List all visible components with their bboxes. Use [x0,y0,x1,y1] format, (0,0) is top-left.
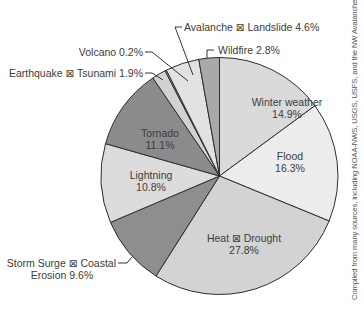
label-lightning-name: Lightning [116,169,186,181]
leader-line-storm-surge [118,257,132,263]
label-storm-surge: Storm Surge ⊠ Coastal Erosion 9.6% [0,257,116,281]
label-flood-name: Flood [255,150,325,162]
label-lightning: Lightning 10.8% [116,169,186,193]
label-avalanche-landslide: Avalanche ⊠ Landslide 4.6% [184,21,319,33]
label-heat-drought-pct: 27.8% [194,244,294,256]
label-winter-weather-name: Winter weather [247,96,327,108]
label-volcano: Volcano 0.2% [40,46,143,58]
label-tornado-name: Tornado [130,127,190,139]
label-flood: Flood 16.3% [255,150,325,174]
label-wildfire: Wildfire 2.8% [218,44,280,56]
label-flood-pct: 16.3% [255,162,325,174]
label-earthquake-tsunami: Earthquake ⊠ Tsunami 1.9% [0,67,143,79]
label-storm-surge-line2: Erosion 9.6% [0,269,116,281]
label-winter-weather: Winter weather 14.9% [247,96,327,120]
label-tornado: Tornado 11.1% [130,127,190,151]
label-heat-drought-name: Heat ⊠ Drought [194,232,294,244]
leader-line-wildfire [207,50,214,58]
label-tornado-pct: 11.1% [130,139,190,151]
label-heat-drought: Heat ⊠ Drought 27.8% [194,232,294,256]
label-storm-surge-line1: Storm Surge ⊠ Coastal [0,257,116,269]
source-credit: Compiled from many sources, including NO… [350,0,359,300]
label-winter-weather-pct: 14.9% [247,108,327,120]
label-lightning-pct: 10.8% [116,181,186,193]
